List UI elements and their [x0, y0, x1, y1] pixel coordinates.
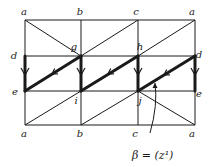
vertex-label-bot-a-left: a — [21, 128, 27, 139]
vertex-label-top-a-right: a — [189, 6, 195, 17]
diagram-canvas: abcadghdeijeabca β = (z¹) — [0, 0, 215, 167]
vertex-label-top-a-left: a — [21, 6, 27, 17]
vertex-label-bot-b: b — [77, 128, 83, 139]
edge — [81, 20, 138, 56]
vertex-label-mid-d-right: d — [196, 49, 202, 60]
edge — [25, 91, 81, 125]
vertex-label-bot-c: c — [132, 128, 138, 139]
vertex-label-mid-g: g — [71, 41, 77, 52]
arrow-up-icon — [153, 83, 158, 88]
edge — [81, 91, 138, 125]
vertex-label-top-b: b — [77, 6, 83, 17]
vertex-label-top-c: c — [133, 6, 139, 17]
vertex-label-mid-d-left: d — [11, 50, 17, 61]
vertex-label-low-i: i — [74, 95, 77, 106]
vertex-label-mid-h: h — [137, 41, 143, 52]
path-edge — [138, 56, 195, 91]
edge — [138, 91, 195, 125]
vertex-label-low-j: j — [136, 95, 141, 106]
vertex-label-low-e-right: e — [196, 88, 202, 99]
vertex-label-bot-a-right: a — [189, 128, 195, 139]
edge — [138, 20, 195, 56]
beta-annotation: β = (z¹) — [131, 149, 173, 162]
vertex-label-low-e-left: e — [12, 86, 18, 97]
triangulated-grid-diagram: abcadghdeijeabca β = (z¹) — [0, 0, 215, 167]
vertex-labels: abcadghdeijeabca — [11, 6, 202, 139]
